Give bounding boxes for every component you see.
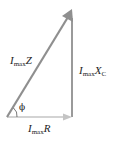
impedance-label: ImaxZ <box>10 55 32 66</box>
impedance-arrowhead-icon <box>62 9 73 22</box>
resistive-label: ImaxR <box>28 123 50 134</box>
phasor-diagram: ImaxZ ImaxXC ImaxR ϕ <box>0 0 119 143</box>
phase-angle-label: ϕ <box>19 103 25 112</box>
resistive-arrowhead-icon <box>63 114 72 121</box>
capacitive-label: ImaxXC <box>79 65 106 76</box>
angle-arc <box>14 108 18 117</box>
